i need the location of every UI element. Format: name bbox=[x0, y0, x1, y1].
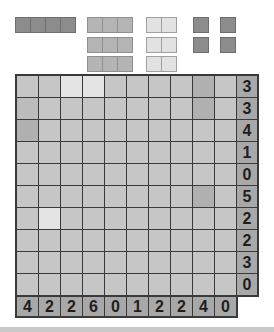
board-cell-r5-c6[interactable] bbox=[149, 186, 170, 207]
board-cell-r4-c1[interactable] bbox=[39, 164, 60, 185]
board-cell-r3-c4[interactable] bbox=[105, 142, 126, 163]
board-cell-r7-c8[interactable] bbox=[193, 230, 214, 251]
board-cell-r0-c8[interactable] bbox=[193, 76, 214, 97]
board-cell-r6-c4[interactable] bbox=[105, 208, 126, 229]
board-cell-r0-c7[interactable] bbox=[171, 76, 192, 97]
board-cell-r5-c0[interactable] bbox=[17, 186, 38, 207]
board-cell-r9-c0[interactable] bbox=[17, 274, 38, 295]
board-cell-r8-c3[interactable] bbox=[83, 252, 104, 273]
board-cell-r1-c1[interactable] bbox=[39, 98, 60, 119]
board-cell-r4-c4[interactable] bbox=[105, 164, 126, 185]
board-cell-r7-c1[interactable] bbox=[39, 230, 60, 251]
board-cell-r5-c3[interactable] bbox=[83, 186, 104, 207]
board-cell-r1-c0[interactable] bbox=[17, 98, 38, 119]
board-cell-r3-c3[interactable] bbox=[83, 142, 104, 163]
board-cell-r4-c5[interactable] bbox=[127, 164, 148, 185]
board-cell-r8-c6[interactable] bbox=[149, 252, 170, 273]
board-cell-r3-c0[interactable] bbox=[17, 142, 38, 163]
board-cell-r7-c0[interactable] bbox=[17, 230, 38, 251]
board-cell-r8-c2[interactable] bbox=[61, 252, 82, 273]
board-cell-r5-c9[interactable] bbox=[215, 186, 236, 207]
board-cell-r2-c6[interactable] bbox=[149, 120, 170, 141]
board-cell-r8-c7[interactable] bbox=[171, 252, 192, 273]
board-cell-r4-c6[interactable] bbox=[149, 164, 170, 185]
board-cell-r3-c7[interactable] bbox=[171, 142, 192, 163]
board-cell-r2-c9[interactable] bbox=[215, 120, 236, 141]
board-cell-r3-c6[interactable] bbox=[149, 142, 170, 163]
board-cell-r0-c2[interactable] bbox=[61, 76, 82, 97]
board-cell-r2-c2[interactable] bbox=[61, 120, 82, 141]
board-cell-r1-c9[interactable] bbox=[215, 98, 236, 119]
board-cell-r6-c0[interactable] bbox=[17, 208, 38, 229]
board-cell-r0-c0[interactable] bbox=[17, 76, 38, 97]
board-cell-r1-c8[interactable] bbox=[193, 98, 214, 119]
board-cell-r2-c3[interactable] bbox=[83, 120, 104, 141]
board-cell-r8-c4[interactable] bbox=[105, 252, 126, 273]
board-cell-r0-c9[interactable] bbox=[215, 76, 236, 97]
board-cell-r7-c3[interactable] bbox=[83, 230, 104, 251]
board-cell-r9-c7[interactable] bbox=[171, 274, 192, 295]
board-cell-r6-c7[interactable] bbox=[171, 208, 192, 229]
board-cell-r6-c5[interactable] bbox=[127, 208, 148, 229]
board-cell-r4-c3[interactable] bbox=[83, 164, 104, 185]
board-cell-r2-c8[interactable] bbox=[193, 120, 214, 141]
board-cell-r0-c3[interactable] bbox=[83, 76, 104, 97]
board-cell-r6-c1[interactable] bbox=[39, 208, 60, 229]
board-cell-r9-c2[interactable] bbox=[61, 274, 82, 295]
board-cell-r3-c8[interactable] bbox=[193, 142, 214, 163]
board-cell-r5-c7[interactable] bbox=[171, 186, 192, 207]
board-cell-r6-c9[interactable] bbox=[215, 208, 236, 229]
board-cell-r5-c4[interactable] bbox=[105, 186, 126, 207]
board-cell-r9-c3[interactable] bbox=[83, 274, 104, 295]
board-cell-r1-c4[interactable] bbox=[105, 98, 126, 119]
board-cell-r6-c6[interactable] bbox=[149, 208, 170, 229]
board-cell-r9-c5[interactable] bbox=[127, 274, 148, 295]
board-cell-r9-c6[interactable] bbox=[149, 274, 170, 295]
board-cell-r5-c8[interactable] bbox=[193, 186, 214, 207]
board-cell-r6-c8[interactable] bbox=[193, 208, 214, 229]
board-cell-r7-c9[interactable] bbox=[215, 230, 236, 251]
board-cell-r3-c5[interactable] bbox=[127, 142, 148, 163]
board-cell-r8-c8[interactable] bbox=[193, 252, 214, 273]
board-cell-r4-c0[interactable] bbox=[17, 164, 38, 185]
board-cell-r2-c0[interactable] bbox=[17, 120, 38, 141]
board-cell-r0-c1[interactable] bbox=[39, 76, 60, 97]
board-cell-r3-c9[interactable] bbox=[215, 142, 236, 163]
board-cell-r2-c1[interactable] bbox=[39, 120, 60, 141]
board-cell-r7-c7[interactable] bbox=[171, 230, 192, 251]
board-cell-r4-c9[interactable] bbox=[215, 164, 236, 185]
board-cell-r7-c5[interactable] bbox=[127, 230, 148, 251]
board-cell-r8-c0[interactable] bbox=[17, 252, 38, 273]
board-cell-r9-c9[interactable] bbox=[215, 274, 236, 295]
board-cell-r5-c5[interactable] bbox=[127, 186, 148, 207]
board-cell-r0-c6[interactable] bbox=[149, 76, 170, 97]
board-cell-r2-c7[interactable] bbox=[171, 120, 192, 141]
board-cell-r2-c5[interactable] bbox=[127, 120, 148, 141]
board-cell-r9-c8[interactable] bbox=[193, 274, 214, 295]
board-cell-r2-c4[interactable] bbox=[105, 120, 126, 141]
board-cell-r7-c4[interactable] bbox=[105, 230, 126, 251]
board-cell-r0-c4[interactable] bbox=[105, 76, 126, 97]
board-cell-r1-c5[interactable] bbox=[127, 98, 148, 119]
board-cell-r0-c5[interactable] bbox=[127, 76, 148, 97]
board-cell-r6-c2[interactable] bbox=[61, 208, 82, 229]
board-cell-r4-c7[interactable] bbox=[171, 164, 192, 185]
board-cell-r9-c1[interactable] bbox=[39, 274, 60, 295]
board-cell-r3-c1[interactable] bbox=[39, 142, 60, 163]
board-cell-r5-c1[interactable] bbox=[39, 186, 60, 207]
board-cell-r3-c2[interactable] bbox=[61, 142, 82, 163]
board-cell-r7-c6[interactable] bbox=[149, 230, 170, 251]
board-cell-r8-c1[interactable] bbox=[39, 252, 60, 273]
board-cell-r8-c9[interactable] bbox=[215, 252, 236, 273]
board-cell-r4-c8[interactable] bbox=[193, 164, 214, 185]
board-cell-r1-c6[interactable] bbox=[149, 98, 170, 119]
board-cell-r8-c5[interactable] bbox=[127, 252, 148, 273]
board-cell-r6-c3[interactable] bbox=[83, 208, 104, 229]
board-cell-r1-c3[interactable] bbox=[83, 98, 104, 119]
board-cell-r1-c2[interactable] bbox=[61, 98, 82, 119]
board-cell-r7-c2[interactable] bbox=[61, 230, 82, 251]
board-cell-r4-c2[interactable] bbox=[61, 164, 82, 185]
board-cell-r9-c4[interactable] bbox=[105, 274, 126, 295]
board-cell-r1-c7[interactable] bbox=[171, 98, 192, 119]
board-cell-r5-c2[interactable] bbox=[61, 186, 82, 207]
